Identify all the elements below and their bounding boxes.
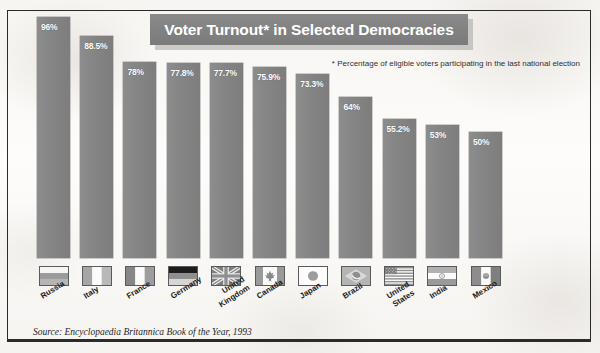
bar-japan xyxy=(296,74,329,258)
chart-plot-area: 96% Russia88.5% Italy78% France77.8% Ger… xyxy=(0,0,600,353)
bar-value-label: 78% xyxy=(127,67,143,77)
bar-value-label: 73.3% xyxy=(300,79,323,89)
bar-italy xyxy=(80,36,113,258)
bar-value-label: 96% xyxy=(41,22,57,32)
bar-value-label: 53% xyxy=(430,130,446,140)
chart-footnote: * Percentage of eligible voters particip… xyxy=(330,58,580,69)
bar-brazil xyxy=(339,97,372,258)
bar-value-label: 77.8% xyxy=(171,68,194,78)
bar-germany xyxy=(167,63,200,258)
chart-source-note: Source: Encyclopaedia Britannica Book of… xyxy=(33,327,252,337)
bar-value-label: 88.5% xyxy=(84,41,107,51)
bar-india xyxy=(426,125,459,258)
bar-russia xyxy=(37,17,70,258)
bar-united-kingdom xyxy=(210,63,243,258)
bar-mexico xyxy=(469,132,502,258)
bar-value-label: 55.2% xyxy=(387,124,410,134)
bar-france xyxy=(123,62,156,258)
bar-canada xyxy=(253,67,286,258)
bar-value-label: 50% xyxy=(473,137,489,147)
bar-united-states xyxy=(383,119,416,258)
flag-italy-icon xyxy=(82,266,112,286)
chart-title-banner: Voter Turnout* in Selected Democracies xyxy=(150,14,468,45)
bar-value-label: 77.7% xyxy=(214,68,237,78)
bar-value-label: 75.9% xyxy=(257,72,280,82)
country-label: Italy xyxy=(82,285,101,302)
bar-value-label: 64% xyxy=(343,102,359,112)
chart-title: Voter Turnout* in Selected Democracies xyxy=(150,14,468,45)
